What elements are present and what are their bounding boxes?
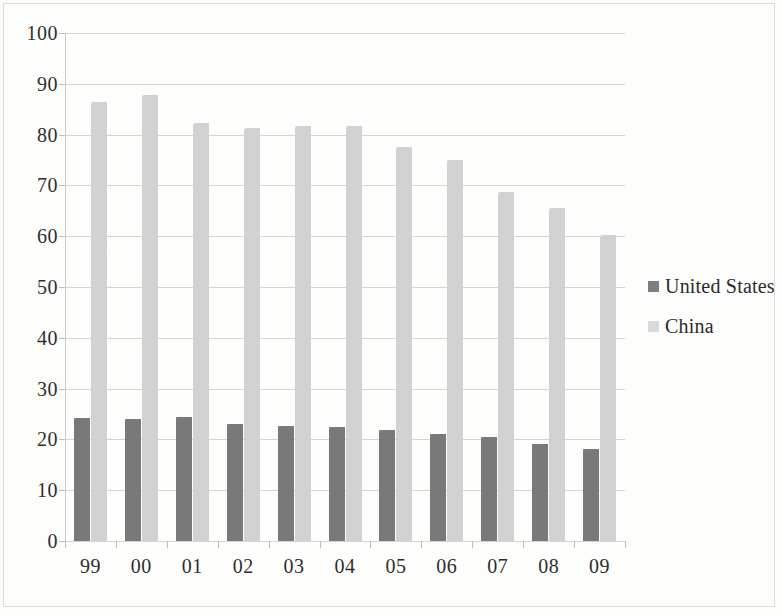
bar-united-states-99[interactable] — [74, 418, 90, 541]
y-axis-tick-label: 50 — [12, 277, 58, 297]
bar-china-09[interactable] — [600, 235, 616, 541]
x-axis-tick — [320, 541, 321, 548]
y-axis-tick-label: 80 — [12, 125, 58, 145]
bar-china-06[interactable] — [447, 160, 463, 541]
bar-united-states-02[interactable] — [227, 424, 243, 541]
y-axis-tick — [59, 33, 65, 34]
y-axis-tick-label: 70 — [12, 175, 58, 195]
y-axis-tick — [59, 135, 65, 136]
y-axis-tick-label: 40 — [12, 328, 58, 348]
x-axis-tick-label-99: 99 — [65, 556, 116, 576]
y-axis-tick-label: 60 — [12, 226, 58, 246]
x-axis-tick-label-00: 00 — [116, 556, 167, 576]
bar-group — [329, 33, 362, 541]
x-axis-tick-label-05: 05 — [370, 556, 421, 576]
y-axis-tick-label: 100 — [12, 23, 58, 43]
bar-group — [379, 33, 412, 541]
x-axis-tick — [269, 541, 270, 548]
bar-group — [430, 33, 463, 541]
legend-swatch-icon — [648, 321, 659, 332]
x-axis-tick — [523, 541, 524, 548]
bar-group — [481, 33, 514, 541]
bar-united-states-06[interactable] — [430, 434, 446, 541]
y-axis-tick-label: 30 — [12, 379, 58, 399]
x-axis-tick — [625, 541, 626, 548]
x-axis-tick-label-07: 07 — [472, 556, 523, 576]
chart-legend: United StatesChina — [648, 276, 780, 356]
bar-united-states-09[interactable] — [583, 449, 599, 542]
y-axis-tick — [59, 236, 65, 237]
bar-china-00[interactable] — [142, 95, 158, 541]
x-axis-tick-label-06: 06 — [421, 556, 472, 576]
y-axis-tick — [59, 389, 65, 390]
legend-item-united-states[interactable]: United States — [648, 276, 780, 296]
bar-united-states-07[interactable] — [481, 437, 497, 541]
x-axis-tick — [421, 541, 422, 548]
bar-group — [74, 33, 107, 541]
x-axis-tick-label-08: 08 — [523, 556, 574, 576]
y-axis-tick — [59, 439, 65, 440]
x-axis-tick — [472, 541, 473, 548]
bar-united-states-03[interactable] — [278, 426, 294, 541]
y-axis-tick — [59, 84, 65, 85]
bar-group — [227, 33, 260, 541]
y-axis-tick — [59, 287, 65, 288]
x-axis-tick-label-02: 02 — [218, 556, 269, 576]
y-axis-tick — [59, 490, 65, 491]
plot-area — [65, 33, 625, 541]
bar-china-03[interactable] — [295, 126, 311, 542]
x-axis-tick-label-09: 09 — [574, 556, 625, 576]
bar-china-01[interactable] — [193, 123, 209, 541]
legend-label: United States — [665, 276, 775, 296]
y-axis-tick — [59, 185, 65, 186]
bar-group — [176, 33, 209, 541]
bar-united-states-08[interactable] — [532, 444, 548, 542]
y-axis-tick-label: 20 — [12, 429, 58, 449]
bar-china-04[interactable] — [346, 126, 362, 542]
bar-china-07[interactable] — [498, 192, 514, 542]
y-axis-labels: 1009080706050403020100 — [6, 33, 58, 541]
gridline — [65, 541, 625, 542]
bar-united-states-01[interactable] — [176, 417, 192, 542]
x-axis-tick-label-04: 04 — [320, 556, 371, 576]
x-axis-tick-label-01: 01 — [167, 556, 218, 576]
bar-group — [125, 33, 158, 541]
x-axis-tick — [574, 541, 575, 548]
bar-china-05[interactable] — [396, 147, 412, 541]
x-axis-tick — [370, 541, 371, 548]
y-axis-tick-label: 10 — [12, 480, 58, 500]
bar-united-states-00[interactable] — [125, 419, 141, 541]
x-axis-tick — [65, 541, 66, 548]
y-axis-tick-label: 0 — [12, 531, 58, 551]
legend-item-china[interactable]: China — [648, 316, 780, 336]
bar-group — [532, 33, 565, 541]
y-axis-tick — [59, 338, 65, 339]
bar-united-states-05[interactable] — [379, 430, 395, 541]
bar-china-08[interactable] — [549, 208, 565, 541]
bar-china-99[interactable] — [91, 102, 107, 541]
legend-label: China — [665, 316, 714, 336]
chart-page: 1009080706050403020100 99000102030405060… — [0, 0, 782, 616]
bar-group — [583, 33, 616, 541]
x-axis-tick — [116, 541, 117, 548]
x-axis-tick — [218, 541, 219, 548]
bar-china-02[interactable] — [244, 128, 260, 541]
bar-group — [278, 33, 311, 541]
x-axis-tick-label-03: 03 — [269, 556, 320, 576]
bar-united-states-04[interactable] — [329, 427, 345, 541]
x-axis-tick — [167, 541, 168, 548]
y-axis-tick-label: 90 — [12, 74, 58, 94]
grouped-bar-chart: 1009080706050403020100 99000102030405060… — [0, 0, 782, 616]
legend-swatch-icon — [648, 281, 659, 292]
